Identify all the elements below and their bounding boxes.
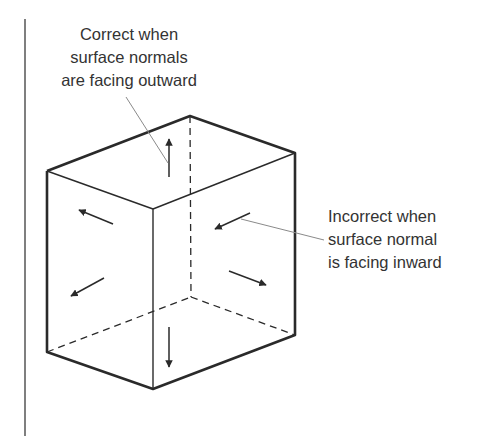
arrow-left-lower-outward-icon [71,278,104,296]
annotation-correct-line-1: Correct when [34,23,224,46]
annotation-correct-line-2: surface normals [34,46,224,69]
leader-correct [126,97,168,163]
annotation-correct-line-3: are facing outward [34,69,224,92]
arrow-right-upper-inward-icon [215,213,250,229]
arrow-left-upper-outward-icon [79,210,113,224]
arrow-right-lower-outward-icon [229,271,266,285]
hidden-edges [47,116,295,352]
annotation-correct: Correct when surface normals are facing … [34,23,224,92]
annotation-incorrect-line-2: surface normal [328,228,442,251]
leader-incorrect [241,219,324,240]
annotation-incorrect-line-3: is facing inward [328,251,442,274]
box-outline [47,116,295,389]
normal-arrows [71,139,266,367]
annotation-incorrect-line-1: Incorrect when [328,205,442,228]
annotation-incorrect: Incorrect when surface normal is facing … [328,205,442,274]
